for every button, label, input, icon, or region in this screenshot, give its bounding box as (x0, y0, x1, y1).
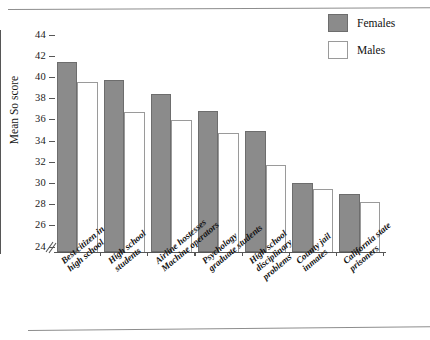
bar-females-5 (292, 183, 313, 252)
figure-bottom-rule (28, 326, 430, 331)
x-tick-5 (336, 252, 337, 256)
x-category-label-6: California state prisoners (341, 220, 400, 274)
y-tick-label-26: 26 (35, 219, 46, 230)
bar-females-2 (151, 94, 172, 252)
x-category-label-5: County jail inmates (294, 231, 340, 274)
y-tick-26 (49, 225, 55, 226)
bar-males-0 (77, 82, 98, 252)
figure-top-rule (8, 7, 430, 10)
y-tick-24 (49, 247, 55, 248)
x-category-label-0: Best citizen in high school (59, 224, 113, 274)
x-tick-6 (383, 252, 384, 256)
x-tick-3 (242, 252, 243, 256)
x-tick-1 (147, 252, 148, 256)
x-tick-0 (100, 252, 101, 256)
x-tick-2 (194, 252, 195, 256)
y-tick-44 (49, 35, 55, 36)
y-tick-38 (49, 98, 55, 99)
y-tick-42 (49, 56, 55, 57)
legend-item-females[interactable]: Females (328, 14, 428, 32)
y-tick-28 (49, 204, 55, 205)
y-tick-label-32: 32 (35, 156, 46, 167)
legend-item-males[interactable]: Males (328, 41, 428, 59)
legend-swatch-males-icon (328, 41, 348, 59)
y-tick-label-28: 28 (35, 198, 46, 209)
y-tick-32 (49, 162, 55, 163)
figure-chart: Mean So score 2426283032343638404244 Bes… (0, 0, 430, 340)
y-tick-34 (49, 141, 55, 142)
y-tick-label-38: 38 (35, 92, 46, 103)
bar-females-0 (57, 62, 78, 253)
bar-females-1 (104, 80, 125, 252)
legend-label-males: Males (357, 44, 385, 56)
y-tick-label-42: 42 (35, 50, 46, 61)
y-axis-line (0, 30, 1, 254)
legend: Females Males (328, 14, 428, 68)
y-tick-label-36: 36 (35, 113, 46, 124)
y-tick-label-34: 34 (35, 135, 46, 146)
y-axis-title: Mean So score (8, 50, 20, 170)
y-tick-40 (49, 77, 55, 78)
y-tick-label-24: 24 (35, 241, 46, 252)
y-tick-30 (49, 183, 55, 184)
y-tick-label-44: 44 (35, 29, 46, 40)
legend-swatch-females-icon (328, 14, 348, 32)
y-tick-36 (49, 119, 55, 120)
y-tick-label-40: 40 (35, 71, 46, 82)
legend-label-females: Females (357, 17, 395, 29)
y-tick-label-30: 30 (35, 177, 46, 188)
